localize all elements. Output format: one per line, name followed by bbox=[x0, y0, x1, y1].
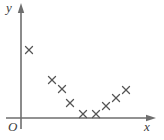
origin-label: O bbox=[8, 120, 17, 133]
data-point-marker bbox=[80, 111, 87, 118]
data-point-marker bbox=[26, 47, 33, 54]
data-markers-group bbox=[26, 47, 130, 118]
y-axis-arrowhead-icon bbox=[18, 3, 24, 13]
y-axis-label: y bbox=[6, 1, 12, 14]
data-point-marker bbox=[59, 86, 66, 93]
data-point-marker bbox=[93, 111, 100, 118]
x-axis-label: x bbox=[144, 120, 150, 133]
axes-group bbox=[6, 3, 156, 129]
data-point-marker bbox=[67, 100, 74, 107]
data-point-marker bbox=[103, 103, 110, 110]
scatter-plot-figure: y x O bbox=[0, 0, 164, 140]
data-point-marker bbox=[49, 77, 56, 84]
data-point-marker bbox=[123, 87, 130, 94]
data-point-marker bbox=[113, 95, 120, 102]
plot-canvas bbox=[0, 0, 164, 140]
